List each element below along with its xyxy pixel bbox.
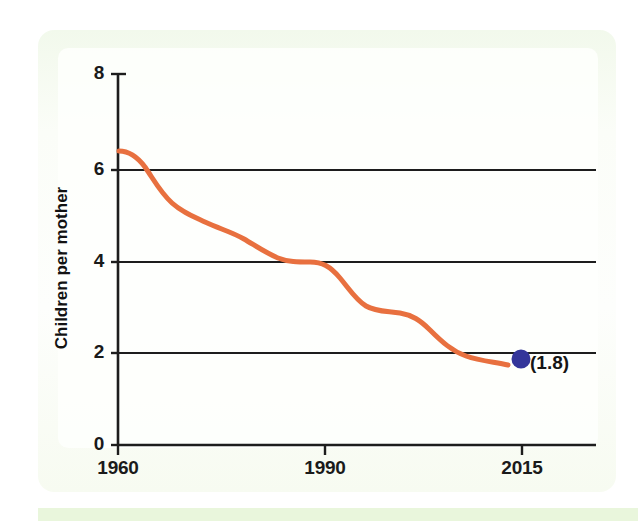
figure-page: 8 6 4 2 0 1960 1990 2015 Children per mo… (0, 0, 642, 521)
y-tick-label-4: 4 (80, 250, 104, 272)
y-tick-label-2: 2 (80, 341, 104, 363)
x-tick-label-1990: 1990 (285, 457, 365, 479)
endpoint-marker-icon (512, 350, 531, 369)
line-chart: 8 6 4 2 0 1960 1990 2015 Children per mo… (0, 0, 642, 521)
fertility-line (119, 151, 508, 365)
x-tick-label-2015: 2015 (482, 457, 562, 479)
x-tick-label-1960: 1960 (78, 457, 158, 479)
y-tick-label-8: 8 (80, 62, 104, 84)
y-tick-label-0: 0 (80, 433, 104, 455)
y-tick-label-6: 6 (80, 158, 104, 180)
endpoint-annotation-label: (1.8) (530, 352, 569, 374)
y-axis-title: Children per mother (52, 168, 72, 368)
